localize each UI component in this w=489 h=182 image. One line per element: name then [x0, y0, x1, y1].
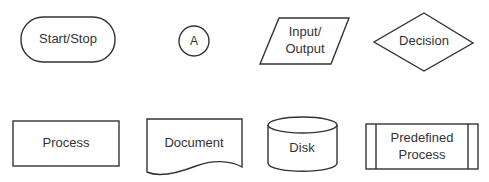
start-stop-symbol: Start/Stop	[21, 17, 115, 62]
connector-label: A	[190, 34, 198, 48]
input-output-label-line1: Input/	[289, 24, 322, 39]
predefined-process-symbol: Predefined Process	[366, 124, 478, 169]
predefined-process-label-line1: Predefined	[391, 130, 454, 145]
cylinder-top-shape	[268, 117, 337, 133]
disk-label: Disk	[289, 140, 315, 155]
input-output-symbol: Input/ Output	[260, 18, 349, 64]
process-symbol: Process	[13, 121, 119, 166]
input-output-label-line2: Output	[285, 41, 324, 56]
document-label: Document	[164, 135, 224, 150]
start-stop-label: Start/Stop	[39, 31, 97, 46]
process-label: Process	[43, 135, 90, 150]
flowchart-symbols-diagram: Start/Stop A Input/ Output Decision Proc…	[0, 0, 489, 182]
connector-symbol: A	[179, 26, 209, 56]
decision-symbol: Decision	[374, 13, 473, 71]
disk-symbol: Disk	[268, 117, 337, 171]
decision-label: Decision	[399, 33, 449, 48]
predefined-process-label-line2: Process	[399, 147, 446, 162]
document-symbol: Document	[147, 119, 242, 175]
